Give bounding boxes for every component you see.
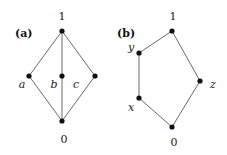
label-top-b: 1: [170, 10, 177, 23]
edge-z-bottom: [172, 81, 200, 127]
edge-top-z: [172, 31, 200, 81]
label-z: z: [209, 78, 216, 91]
node-a: [26, 73, 31, 78]
panel-label-a: (a): [15, 27, 33, 40]
node-bottom-b: [169, 124, 174, 129]
node-bottom-a: [59, 118, 64, 123]
label-c: c: [73, 78, 79, 91]
panel-label-b: (b): [117, 27, 135, 40]
edge-x-bottom: [139, 98, 172, 127]
edge-top-a: [29, 31, 62, 76]
node-z: [197, 78, 202, 83]
node-b: [59, 73, 64, 78]
label-bottom-b: 0: [171, 136, 178, 149]
lattice-diagrams: (a) 1 a b c 0 (b) 1 y x z 0: [0, 0, 227, 155]
diagram-b: (b) 1 y x z 0: [117, 10, 216, 149]
node-x: [136, 95, 141, 100]
node-y: [136, 50, 141, 55]
label-a: a: [19, 78, 26, 91]
edge-top-y: [139, 31, 172, 53]
diagram-a: (a) 1 a b c 0: [15, 10, 98, 146]
label-b: b: [50, 78, 57, 91]
node-c: [92, 73, 97, 78]
edge-top-c: [62, 31, 95, 76]
node-top-a: [59, 28, 64, 33]
node-top-b: [169, 28, 174, 33]
label-y: y: [127, 41, 135, 54]
label-x: x: [128, 101, 135, 114]
label-top-a: 1: [59, 10, 66, 23]
label-bottom-a: 0: [61, 133, 68, 146]
